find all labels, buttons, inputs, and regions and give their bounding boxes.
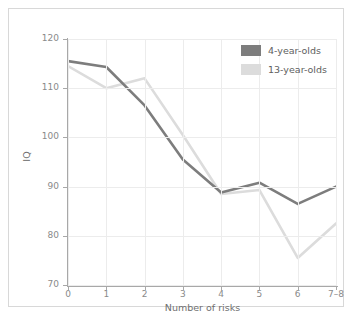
y-tick-mark [63,285,67,286]
gridline-horizontal [68,39,337,40]
gridline-vertical [183,39,184,286]
y-tick-label: 100 [19,132,59,141]
gridline-vertical [221,39,222,286]
y-tick-mark [63,39,67,40]
y-tick-mark [63,137,67,138]
y-tick-mark [63,88,67,89]
y-axis-label: IQ [21,137,32,177]
gridline-horizontal [68,137,337,138]
x-tick-mark [183,286,184,290]
x-tick-mark [336,286,337,290]
x-tick-label: 2 [125,290,165,299]
legend-item: 13-year-olds [241,61,345,77]
x-tick-label: 1 [86,290,126,299]
y-tick-label: 90 [19,182,59,191]
x-tick-mark [145,286,146,290]
x-tick-label: 6 [278,290,318,299]
x-tick-label: 0 [48,290,88,299]
y-tick-mark [63,236,67,237]
x-tick-label: 3 [163,290,203,299]
x-tick-label: 4 [201,290,241,299]
gridline-vertical [106,39,107,286]
series-line [68,66,336,258]
legend-item-label: 13-year-olds [268,64,327,75]
y-tick-label: 110 [19,83,59,92]
x-tick-mark [221,286,222,290]
chart-legend: 4-year-olds 13-year-olds [241,42,345,80]
gridline-horizontal [68,285,337,286]
gridline-vertical [68,39,69,286]
x-tick-mark [259,286,260,290]
gridline-horizontal [68,187,337,188]
chart-figure: IQ 120110100908070 01234567–8 Number of … [0,0,353,317]
x-tick-mark [106,286,107,290]
figure-frame: IQ 120110100908070 01234567–8 Number of … [8,8,344,307]
gridline-horizontal [68,88,337,89]
y-tick-label: 70 [19,280,59,289]
legend-item-label: 4-year-olds [268,45,321,56]
x-axis-label: Number of risks [68,302,337,313]
x-tick-label: 7–8 [316,290,353,299]
x-tick-mark [298,286,299,290]
y-tick-label: 80 [19,231,59,240]
y-tick-label: 120 [19,34,59,43]
gridline-horizontal [68,236,337,237]
gridline-vertical [145,39,146,286]
legend-swatch-icon [241,64,261,75]
legend-swatch-icon [241,45,261,56]
series-line [68,61,336,204]
x-tick-mark [68,286,69,290]
x-tick-label: 5 [239,290,279,299]
legend-item: 4-year-olds [241,42,345,58]
figure-top-caption [0,0,353,2]
y-tick-mark [63,187,67,188]
